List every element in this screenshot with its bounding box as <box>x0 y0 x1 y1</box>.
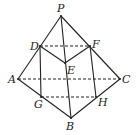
label-G: G <box>34 98 43 111</box>
label-C: C <box>122 73 131 86</box>
label-H: H <box>97 96 108 109</box>
vertex-F <box>89 45 91 47</box>
edge-EF <box>65 46 90 63</box>
vertex-A <box>17 78 19 80</box>
diagram-svg: PDFEACGHB <box>0 0 136 135</box>
label-D: D <box>29 40 39 53</box>
vertex-P <box>60 15 62 17</box>
vertex-B <box>70 117 72 119</box>
edge-AB <box>18 79 71 118</box>
vertex-H <box>95 96 97 98</box>
edge-DG <box>40 46 41 97</box>
vertex-E <box>64 62 66 64</box>
label-F: F <box>91 38 100 51</box>
label-A: A <box>7 73 16 86</box>
label-P: P <box>56 2 65 15</box>
label-B: B <box>65 120 74 133</box>
geometry-diagram: PDFEACGHB <box>0 0 136 135</box>
label-E: E <box>66 64 75 77</box>
edge-FH <box>90 46 96 97</box>
vertex-D <box>39 45 41 47</box>
vertex-C <box>119 78 121 80</box>
edge-DE <box>40 46 65 63</box>
edge-BC <box>71 79 120 118</box>
